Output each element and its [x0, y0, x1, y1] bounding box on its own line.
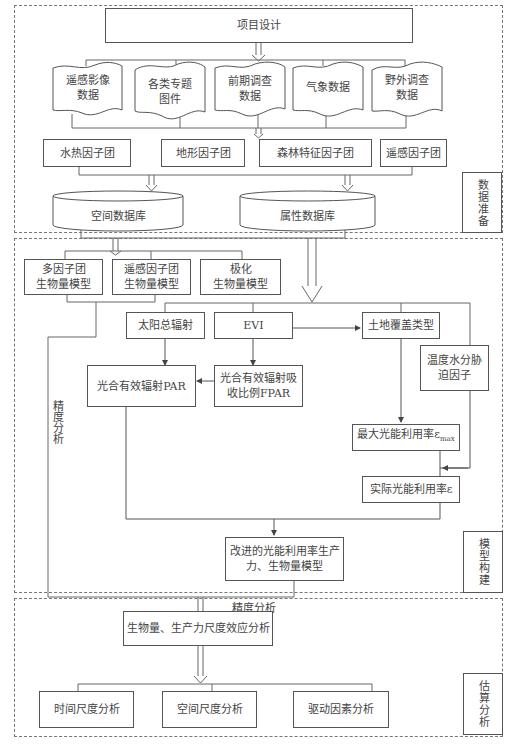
- fpar-box: 光合有效辐射吸 收比例FPAR: [214, 365, 303, 407]
- land-cover-box: 土地覆盖类型: [362, 312, 440, 339]
- data-source-label: 气象数据: [306, 80, 350, 95]
- model-remote-sensing-factor: 遥感因子团 生物量模型: [112, 259, 191, 295]
- factor-group-hydrothermal: 水热因子团: [43, 139, 131, 167]
- data-source-label: 前期调查: [228, 74, 272, 89]
- stress-factor-box: 温度水分胁 迫因子: [420, 345, 489, 391]
- factor-group-terrain: 地形因子团: [161, 139, 245, 167]
- fpar-label: 收比例FPAR: [227, 386, 290, 401]
- stress-factor-label: 温度水分胁: [427, 353, 482, 368]
- data-source-label: 各类专题: [148, 77, 192, 92]
- solar-radiation-box: 太阳总辐射: [126, 312, 205, 339]
- data-source-label: 数据: [239, 89, 261, 104]
- factor-group-label: 地形因子团: [176, 146, 231, 161]
- section-label-estimate: 估算分析: [463, 673, 503, 735]
- stress-factor-label: 迫因子: [438, 368, 471, 383]
- model-label: 生物量模型: [36, 277, 91, 292]
- section-label-model-build: 模型构建: [463, 531, 503, 593]
- temporal-scale-box: 时间尺度分析: [39, 691, 134, 728]
- analysis-label: 时间尺度分析: [54, 702, 120, 717]
- solar-radiation-label: 太阳总辐射: [138, 318, 193, 333]
- factor-group-label: 森林特征因子团: [277, 146, 354, 161]
- par-label: 光合有效辐射PAR: [97, 379, 186, 394]
- land-cover-label: 土地覆盖类型: [368, 318, 434, 333]
- spatial-database: 空间数据库: [53, 203, 183, 227]
- accuracy-analysis-vertical-label: 精度分析: [51, 400, 63, 444]
- analysis-label: 空间尺度分析: [177, 702, 243, 717]
- improved-model-box: 改进的光能利用率生产 力、生物量模型: [225, 537, 344, 581]
- max-lue-label: 最大光能利用率εmax: [357, 427, 454, 447]
- project-design-box: 项目设计: [105, 8, 413, 43]
- factor-group-remote-sensing: 遥感因子团: [380, 139, 447, 167]
- model-label: 多因子团: [42, 262, 86, 277]
- attribute-database: 属性数据库: [240, 203, 375, 227]
- data-source-thematic-maps: 各类专题 图件: [135, 70, 205, 114]
- factor-group-forest: 森林特征因子团: [259, 139, 372, 167]
- database-label: 空间数据库: [91, 207, 146, 223]
- section-label-text: 估算分析: [477, 680, 490, 728]
- project-design-label: 项目设计: [237, 18, 281, 33]
- par-box: 光合有效辐射PAR: [87, 365, 196, 407]
- data-source-label: 图件: [159, 92, 181, 107]
- model-polarization: 极化 生物量模型: [200, 259, 281, 295]
- analysis-label: 驱动因素分析: [308, 702, 374, 717]
- model-label: 生物量模型: [124, 277, 179, 292]
- section-label-text: 数据准备: [476, 179, 489, 227]
- data-source-meteorological: 气象数据: [293, 67, 363, 107]
- actual-lue-box: 实际光能利用率ε: [362, 476, 460, 503]
- model-label: 遥感因子团: [124, 262, 179, 277]
- model-label: 生物量模型: [213, 277, 268, 292]
- max-lue-box: 最大光能利用率εmax: [352, 424, 460, 451]
- evi-label: EVI: [243, 318, 263, 333]
- driving-factors-box: 驱动因素分析: [293, 691, 389, 728]
- scale-effect-label: 生物量、生产力尺度效应分析: [127, 621, 270, 636]
- data-source-label: 遥感影像: [66, 73, 110, 88]
- scale-effect-box: 生物量、生产力尺度效应分析: [123, 611, 273, 646]
- model-multi-factor: 多因子团 生物量模型: [24, 259, 103, 295]
- database-label: 属性数据库: [280, 207, 335, 223]
- improved-model-label: 力、生物量模型: [246, 559, 323, 574]
- actual-lue-label: 实际光能利用率ε: [370, 482, 453, 497]
- data-source-previous-survey: 前期调查 数据: [215, 67, 285, 111]
- section-label-data-prep: 数据准备: [462, 172, 502, 233]
- spatial-scale-box: 空间尺度分析: [162, 691, 257, 728]
- section-label-text: 模型构建: [477, 538, 490, 586]
- data-source-label: 野外调查: [385, 73, 429, 88]
- data-source-field-survey: 野外调查 数据: [372, 68, 442, 108]
- data-source-label: 数据: [77, 88, 99, 103]
- evi-box: EVI: [214, 312, 293, 339]
- model-label: 极化: [230, 262, 252, 277]
- fpar-label: 光合有效辐射吸: [220, 371, 297, 386]
- data-source-label: 数据: [396, 88, 418, 103]
- factor-group-label: 遥感因子团: [386, 146, 441, 161]
- improved-model-label: 改进的光能利用率生产: [230, 544, 340, 559]
- data-source-remote-sensing: 遥感影像 数据: [53, 66, 122, 110]
- factor-group-label: 水热因子团: [60, 146, 115, 161]
